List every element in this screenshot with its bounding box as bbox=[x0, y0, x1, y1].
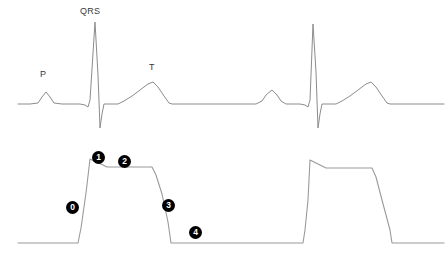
phase-2-marker: 2 bbox=[118, 155, 131, 168]
ecg-label-p: P bbox=[40, 69, 46, 79]
action-potential-waveform-path bbox=[18, 159, 444, 243]
ecg-waveform-path bbox=[18, 22, 444, 128]
waveform-canvas bbox=[0, 0, 445, 254]
ecg-label-t: T bbox=[149, 62, 155, 72]
phase-3-marker: 3 bbox=[162, 199, 175, 212]
phase-4-marker: 4 bbox=[189, 226, 202, 239]
phase-1-marker: 1 bbox=[92, 151, 105, 164]
ecg-label-qrs: QRS bbox=[80, 6, 100, 16]
ecg-action-potential-figure: P QRS T 0 1 2 3 4 bbox=[0, 0, 445, 254]
phase-0-marker: 0 bbox=[66, 201, 79, 214]
